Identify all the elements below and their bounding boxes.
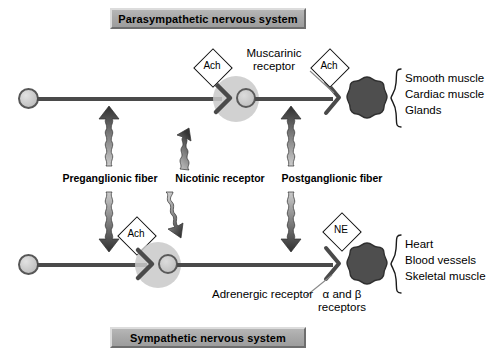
- banner-parasympathetic-label: Parasympathetic nervous system: [118, 13, 297, 25]
- neurotransmitter-label: Ach: [118, 228, 154, 239]
- target-item: Cardiac muscle: [405, 86, 484, 102]
- target-item: Glands: [405, 102, 484, 118]
- callout-alpha-beta-receptors: α and β receptors: [310, 288, 374, 314]
- pointer-arrow-preganglionic-up: [98, 104, 122, 168]
- callout-adrenergic-receptor: Adrenergic receptor: [212, 288, 313, 301]
- brace-parasympathetic: [390, 68, 403, 128]
- axon-preganglionic-sympathetic: [37, 263, 147, 267]
- pointer-arrow-postganglionic-down: [280, 190, 304, 254]
- banner-sympathetic: Sympathetic nervous system: [110, 327, 306, 348]
- callout-muscarinic-line2: receptor: [238, 60, 310, 73]
- pointer-arrow-nicotinic-down: [162, 190, 192, 248]
- diagram-canvas: Parasympathetic nervous system Ach Ach M…: [0, 0, 493, 359]
- neurotransmitter-label: Ach: [194, 60, 230, 71]
- callout-muscarinic-receptor: Muscarinic receptor: [238, 47, 310, 73]
- target-organ-parasympathetic: [346, 76, 388, 120]
- pointer-arrow-postganglionic-up: [280, 104, 304, 168]
- axon-postganglionic-parasympathetic: [255, 97, 333, 101]
- ganglion-body-sympathetic: [158, 254, 178, 274]
- banner-parasympathetic: Parasympathetic nervous system: [110, 8, 306, 29]
- target-item: Heart: [405, 236, 486, 252]
- target-list-sympathetic: Heart Blood vessels Skeletal muscle: [405, 236, 486, 284]
- ganglion-body-parasympathetic: [236, 88, 256, 108]
- axon-postganglionic-sympathetic: [177, 263, 333, 267]
- callout-alpha-beta-line1: α and β: [310, 288, 374, 301]
- target-list-parasympathetic: Smooth muscle Cardiac muscle Glands: [405, 70, 484, 118]
- target-item: Blood vessels: [405, 252, 486, 268]
- soma-parasympathetic: [18, 88, 39, 109]
- target-organ-sympathetic: [346, 242, 388, 286]
- callout-alpha-beta-line2: receptors: [310, 301, 374, 314]
- neurotransmitter-label: NE: [322, 224, 360, 235]
- banner-sympathetic-label: Sympathetic nervous system: [130, 332, 286, 344]
- label-postganglionic-fiber: Postganglionic fiber: [262, 172, 402, 185]
- soma-sympathetic: [18, 254, 39, 275]
- neurotransmitter-tag-ach-pre-parasympathetic: Ach: [194, 49, 230, 85]
- target-item: Skeletal muscle: [405, 268, 486, 284]
- callout-line-muscarinic: [310, 70, 344, 96]
- axon-preganglionic-parasympathetic: [37, 97, 222, 101]
- brace-sympathetic: [390, 234, 403, 294]
- pointer-arrow-nicotinic-up: [168, 128, 196, 170]
- target-item: Smooth muscle: [405, 70, 484, 86]
- callout-muscarinic-line1: Muscarinic: [238, 47, 310, 60]
